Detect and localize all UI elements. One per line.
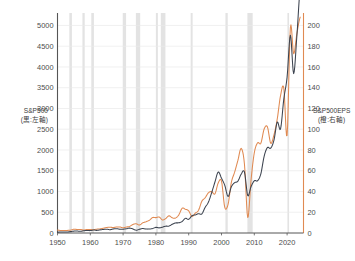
right-tick-label: 80 [308, 146, 316, 155]
right-tick-label: 20 [308, 208, 316, 217]
right-tick-label: 180 [308, 42, 320, 51]
left-tick-label: 4000 [37, 63, 53, 72]
x-tick-label: 1960 [82, 238, 98, 247]
left-tick-label: 0 [49, 229, 53, 238]
x-tick-label: 2000 [213, 238, 229, 247]
left-axis-title-line1: S&P500 [24, 107, 49, 114]
left-tick-label: 2000 [37, 146, 53, 155]
right-tick-label: 100 [308, 125, 320, 134]
left-tick-label: 4500 [37, 42, 53, 51]
right-axis-title-line1: S&P500EPS [313, 107, 351, 114]
right-tick-label: 160 [308, 63, 320, 72]
right-tick-label: 0 [308, 229, 312, 238]
left-axis-title-line2: (黒:左軸) [21, 115, 48, 124]
left-tick-label: 500 [41, 208, 53, 217]
sp500-eps-chart: 0500100015002000250030003500400045005000… [0, 0, 355, 261]
x-tick-label: 1970 [115, 238, 131, 247]
x-tick-label: 1990 [180, 238, 196, 247]
x-tick-label: 2010 [246, 238, 262, 247]
right-tick-label: 40 [308, 187, 316, 196]
left-tick-label: 5000 [37, 21, 53, 30]
chart-canvas: 0500100015002000250030003500400045005000… [0, 0, 355, 261]
right-tick-label: 60 [308, 166, 316, 175]
left-tick-label: 1000 [37, 187, 53, 196]
right-axis-title-line2: (橙:右軸) [318, 115, 345, 124]
x-tick-label: 1950 [49, 238, 65, 247]
x-tick-label: 2020 [279, 238, 295, 247]
right-tick-label: 200 [308, 21, 320, 30]
left-tick-label: 1500 [37, 166, 53, 175]
left-tick-label: 2500 [37, 125, 53, 134]
x-tick-label: 1980 [148, 238, 164, 247]
right-tick-label: 140 [308, 83, 320, 92]
left-tick-label: 3500 [37, 83, 53, 92]
